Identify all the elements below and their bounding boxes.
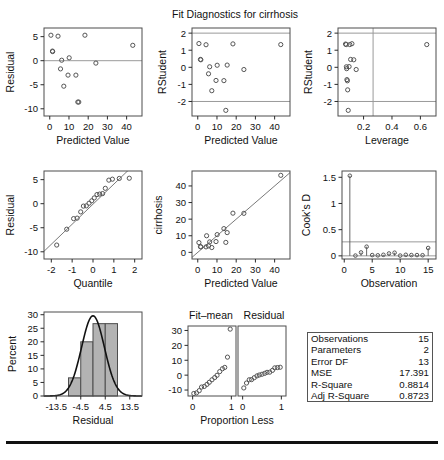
y-tick-label: 20 bbox=[175, 214, 186, 225]
plot-frame bbox=[338, 28, 436, 116]
x-tick-label: -2 bbox=[47, 264, 55, 275]
x-tick-label: 0.6 bbox=[414, 121, 427, 132]
y-tick-label: 5 bbox=[33, 377, 38, 388]
stats-value: 15 bbox=[388, 333, 432, 344]
data-point bbox=[228, 327, 232, 331]
residual-subtitle: Residual bbox=[244, 309, 285, 321]
stats-row: MSE17.391 bbox=[308, 367, 432, 378]
x-axis-label: Predicted Value bbox=[204, 277, 278, 289]
y-axis-label: RStudent bbox=[156, 50, 168, 94]
x-tick-label: 20 bbox=[231, 121, 242, 132]
data-point bbox=[127, 176, 131, 180]
y-tick-label: 2 bbox=[327, 28, 332, 39]
y-tick-label: 10 bbox=[171, 355, 182, 366]
panel-observed-vs-predicted: 010203040Predicted Value010203040cirrhos… bbox=[148, 163, 298, 303]
y-axis-label: Cook's D bbox=[300, 193, 312, 236]
x-tick-label: 30 bbox=[102, 121, 113, 132]
y-tick-label: 2 bbox=[181, 28, 186, 39]
panel-residual-histogram: -13.5-4.54.513.5Residual051015202530Perc… bbox=[0, 306, 150, 432]
stats-label: Adj R-Square bbox=[308, 390, 388, 401]
y-tick-label: -5 bbox=[30, 79, 38, 90]
data-point bbox=[131, 43, 135, 47]
data-point bbox=[67, 56, 71, 60]
x-tick-label: 0 bbox=[190, 401, 195, 412]
x-axis-label: Proportion Less bbox=[200, 414, 274, 426]
stats-label: R-Square bbox=[308, 379, 388, 390]
x-tick-label: -13.5 bbox=[45, 401, 67, 412]
fitmean-subtitle: Fit–mean bbox=[189, 309, 233, 321]
y-tick-label: -10 bbox=[168, 384, 182, 395]
data-point bbox=[225, 355, 229, 359]
x-tick-label: 5 bbox=[370, 264, 375, 275]
data-point bbox=[224, 108, 228, 112]
figure-title: Fit Diagnostics for cirrhosis bbox=[172, 8, 298, 20]
y-tick-label: 5 bbox=[33, 31, 38, 42]
stats-row: Adj R-Square0.8723 bbox=[308, 390, 432, 401]
stats-value: 17.391 bbox=[388, 367, 432, 378]
x-tick-label: 40 bbox=[121, 121, 132, 132]
data-point bbox=[224, 240, 228, 244]
x-tick-label: 0.4 bbox=[385, 121, 398, 132]
x-tick-label: 0 bbox=[195, 264, 200, 275]
data-point bbox=[346, 88, 350, 92]
stats-row: R-Square0.8814 bbox=[308, 379, 432, 390]
data-point bbox=[425, 42, 429, 46]
y-tick-label: 10 bbox=[175, 230, 186, 241]
panel-cooks-d: 051015Observation00.511.5Cook's D bbox=[296, 163, 444, 303]
x-tick-label: -4.5 bbox=[73, 401, 89, 412]
data-point bbox=[225, 231, 229, 235]
y-tick-label: 0.5 bbox=[323, 224, 336, 235]
data-point bbox=[278, 365, 282, 369]
data-point bbox=[94, 61, 98, 65]
stats-row: Parameters2 bbox=[308, 344, 432, 355]
data-point bbox=[197, 41, 201, 45]
x-tick-label: 10 bbox=[212, 264, 223, 275]
data-point bbox=[376, 254, 380, 258]
x-tick-label: 40 bbox=[269, 121, 280, 132]
stats-label: MSE bbox=[308, 367, 388, 378]
stats-label: Error DF bbox=[308, 356, 388, 367]
data-point bbox=[204, 43, 208, 47]
y-tick-label: 15 bbox=[27, 350, 38, 361]
y-tick-label: 0 bbox=[327, 62, 332, 73]
x-tick-label: 20 bbox=[231, 264, 242, 275]
data-point bbox=[205, 234, 209, 238]
y-tick-label: 10 bbox=[27, 363, 38, 374]
x-tick-label: 0 bbox=[342, 264, 347, 275]
x-tick-label: 40 bbox=[269, 264, 280, 275]
data-point bbox=[222, 79, 226, 83]
x-tick-label: 20 bbox=[83, 121, 94, 132]
y-tick-label: 40 bbox=[175, 180, 186, 191]
stats-value: 2 bbox=[388, 344, 432, 355]
x-axis-label: Quantile bbox=[73, 277, 112, 289]
data-point bbox=[74, 73, 78, 77]
stats-value: 0.8814 bbox=[388, 379, 432, 390]
histogram-bar bbox=[81, 342, 93, 396]
x-tick-label: 10 bbox=[64, 121, 75, 132]
x-tick-label: 4.5 bbox=[99, 401, 112, 412]
x-tick-label: 0.2 bbox=[357, 121, 370, 132]
data-point bbox=[215, 63, 219, 67]
x-tick-label: 1 bbox=[111, 264, 116, 275]
y-tick-label: 0 bbox=[181, 247, 186, 258]
x-tick-label: 1 bbox=[229, 401, 234, 412]
stats-value: 0.8723 bbox=[388, 390, 432, 401]
y-tick-label: 1 bbox=[181, 45, 186, 56]
y-tick-label: 5 bbox=[33, 174, 38, 185]
data-point bbox=[354, 67, 358, 71]
x-tick-label: -1 bbox=[68, 264, 76, 275]
stats-label: Observations bbox=[308, 333, 388, 344]
y-axis-label: Percent bbox=[6, 336, 18, 372]
y-axis-label: Residual bbox=[4, 52, 16, 93]
x-axis-label: Predicted Value bbox=[56, 134, 130, 146]
x-axis-label: Predicted Value bbox=[204, 134, 278, 146]
y-tick-label: -1 bbox=[178, 79, 186, 90]
y-tick-label: 1 bbox=[331, 198, 336, 209]
x-tick-label: 10 bbox=[395, 264, 406, 275]
stats-row: Error DF13 bbox=[308, 356, 432, 367]
y-tick-label: 25 bbox=[27, 323, 38, 334]
y-tick-label: 20 bbox=[27, 336, 38, 347]
x-tick-label: 0 bbox=[47, 121, 52, 132]
data-point bbox=[79, 210, 83, 214]
x-tick-label: 2 bbox=[132, 264, 137, 275]
